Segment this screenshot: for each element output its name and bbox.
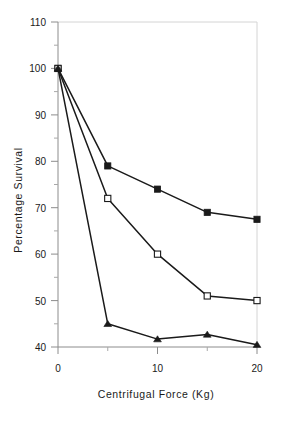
y-tick-100: 100: [29, 63, 46, 74]
chart-figure: 110 100 90 80 70 60 50 40 0 10 20 Centri…: [0, 0, 281, 422]
data-point-marker: [154, 186, 160, 192]
x-axis-title: Centrifugal Force (Kg): [98, 388, 215, 400]
data-point-marker: [154, 251, 160, 257]
y-tick-90: 90: [35, 110, 47, 121]
x-tick-20: 20: [251, 363, 263, 374]
x-tick-10: 10: [152, 363, 164, 374]
y-tick-40: 40: [35, 342, 47, 353]
data-point-marker: [105, 195, 111, 201]
y-tick-50: 50: [35, 296, 47, 307]
line-chart: 110 100 90 80 70 60 50 40 0 10 20 Centri…: [0, 0, 281, 422]
y-tick-70: 70: [35, 203, 47, 214]
x-tick-0: 0: [55, 363, 61, 374]
y-tick-80: 80: [35, 156, 47, 167]
data-point-marker: [105, 163, 111, 169]
data-point-marker: [204, 209, 210, 215]
y-axis-title: Percentage Survival: [12, 147, 24, 252]
y-tick-110: 110: [30, 17, 46, 28]
data-point-marker: [254, 216, 260, 222]
data-point-marker: [204, 293, 210, 299]
data-point-marker: [254, 297, 260, 303]
y-tick-60: 60: [35, 249, 47, 260]
